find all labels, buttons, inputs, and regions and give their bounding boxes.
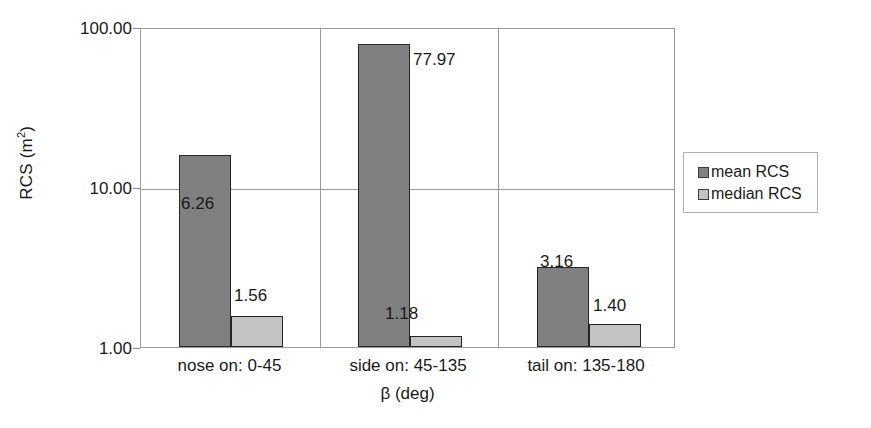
y-tick-mark-1	[133, 348, 140, 349]
y-axis-title-text: RCS (m	[17, 138, 36, 200]
x-tick-label-side-on: side on: 45-135	[319, 356, 497, 376]
y-tick-mark-10	[133, 188, 140, 189]
y-axis-title-tail: )	[17, 126, 36, 132]
y-tick-label-1: 1.00	[46, 340, 132, 357]
y-axis-title-superscript: 2	[15, 132, 27, 138]
legend-swatch-median-icon	[698, 189, 709, 200]
bar-mean-tail-on[interactable]	[537, 267, 589, 347]
bar-label-mean-tail-on: 3.16	[540, 253, 573, 270]
category-separator-1	[320, 29, 321, 347]
x-tick-label-nose-on: nose on: 0-45	[140, 356, 319, 376]
y-tick-label-100: 100.00	[46, 20, 132, 37]
legend-label-median-rcs: median RCS	[711, 185, 802, 203]
y-tick-label-10: 10.00	[46, 180, 132, 197]
y-tick-mark-100	[133, 28, 140, 29]
chart-legend: mean RCS median RCS	[683, 152, 818, 213]
bar-mean-side-on[interactable]	[358, 44, 410, 347]
x-tick-label-tail-on: tail on: 135-180	[497, 356, 675, 376]
plot-area: 6.26 1.56 77.97 1.18 3.16 1.40	[140, 28, 675, 348]
bar-median-side-on[interactable]	[410, 336, 462, 348]
bar-label-median-side-on: 1.18	[385, 305, 418, 322]
legend-label-mean-rcs: mean RCS	[711, 163, 789, 181]
y-axis-tick-labels: 100.00 10.00 1.00	[44, 0, 132, 428]
bar-label-median-tail-on: 1.40	[593, 297, 626, 314]
x-axis-title: β (deg)	[140, 384, 675, 404]
legend-item-mean-rcs[interactable]: mean RCS	[698, 161, 817, 183]
category-separator-2	[498, 29, 499, 347]
bar-label-mean-side-on: 77.97	[413, 51, 456, 68]
bar-mean-nose-on[interactable]	[179, 155, 231, 348]
bar-median-tail-on[interactable]	[589, 324, 641, 347]
legend-item-median-rcs[interactable]: median RCS	[698, 183, 817, 205]
bar-label-median-nose-on: 1.56	[234, 287, 267, 304]
rcs-bar-chart: RCS (m2) 100.00 10.00 1.00 6.26 1.56 77.…	[0, 0, 871, 428]
y-axis-title: RCS (m2)	[15, 93, 37, 233]
bar-label-mean-nose-on: 6.26	[181, 195, 214, 212]
bar-median-nose-on[interactable]	[231, 316, 283, 347]
legend-swatch-mean-icon	[698, 167, 709, 178]
